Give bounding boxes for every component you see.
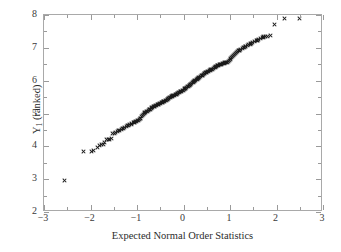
data-point-marker xyxy=(171,93,176,98)
data-point-marker xyxy=(159,100,164,105)
data-point-marker xyxy=(261,34,266,39)
x-axis-major-tick xyxy=(137,205,138,210)
data-point-marker xyxy=(147,107,152,112)
x-axis-major-tick xyxy=(323,205,324,210)
x-axis-tick-label: −2 xyxy=(84,213,95,223)
data-point-marker xyxy=(177,90,182,95)
y-axis-right-major-tick xyxy=(316,81,321,82)
y-axis-major-tick xyxy=(44,81,49,82)
data-point-marker xyxy=(231,53,236,58)
data-point-marker xyxy=(155,102,160,107)
data-point-marker xyxy=(256,37,261,42)
data-point-marker xyxy=(169,94,174,99)
scatter-data-layer xyxy=(44,15,321,210)
data-point-marker xyxy=(193,78,198,83)
x-axis-top-major-tick xyxy=(184,15,185,20)
data-point-marker xyxy=(131,120,136,125)
y-axis-label-subscript: 1 xyxy=(35,123,44,127)
data-point-marker xyxy=(267,33,272,38)
data-point-marker xyxy=(216,63,221,68)
x-axis-top-minor-tick xyxy=(207,15,208,18)
data-point-marker xyxy=(162,99,167,104)
data-point-marker xyxy=(200,73,205,78)
y-axis-major-tick xyxy=(44,15,49,16)
data-point-marker xyxy=(135,118,140,123)
data-point-marker xyxy=(138,116,143,121)
data-point-marker xyxy=(252,39,257,44)
data-point-marker xyxy=(133,119,138,124)
x-axis-top-major-tick xyxy=(277,15,278,20)
data-point-marker xyxy=(91,148,96,153)
data-point-marker xyxy=(254,38,259,43)
data-point-marker xyxy=(152,104,157,109)
x-axis-top-major-tick xyxy=(91,15,92,20)
data-point-marker xyxy=(233,51,238,56)
data-point-marker xyxy=(191,80,196,85)
data-point-marker xyxy=(189,81,194,86)
data-point-marker xyxy=(144,109,149,114)
data-point-marker xyxy=(184,85,189,90)
data-point-marker xyxy=(81,149,86,154)
data-point-marker xyxy=(206,69,211,74)
data-point-marker xyxy=(255,38,260,43)
data-point-marker xyxy=(201,72,206,77)
y-axis-right-major-tick xyxy=(316,146,321,147)
y-axis-right-minor-tick xyxy=(318,97,321,98)
x-axis-minor-tick xyxy=(300,207,301,210)
data-point-marker xyxy=(199,73,204,78)
data-point-marker xyxy=(121,126,126,131)
x-axis-major-tick xyxy=(184,205,185,210)
data-point-marker xyxy=(181,88,186,93)
data-point-marker xyxy=(127,122,132,127)
data-point-marker xyxy=(170,93,175,98)
data-point-marker xyxy=(204,70,209,75)
data-point-marker xyxy=(138,116,143,121)
y-axis-minor-tick xyxy=(44,163,47,164)
data-point-marker xyxy=(225,60,230,65)
data-point-marker xyxy=(197,75,202,80)
y-axis-minor-tick xyxy=(44,64,47,65)
data-point-marker xyxy=(134,119,139,124)
data-point-marker xyxy=(115,129,120,134)
data-point-marker xyxy=(95,145,100,150)
data-point-marker xyxy=(147,107,152,112)
data-point-marker xyxy=(228,56,233,61)
data-point-marker xyxy=(156,102,161,107)
data-point-marker xyxy=(222,61,227,66)
x-axis-top-minor-tick xyxy=(114,15,115,18)
data-point-marker xyxy=(132,120,137,125)
data-point-marker xyxy=(173,92,178,97)
data-point-marker xyxy=(176,90,181,95)
data-point-marker xyxy=(202,71,207,76)
data-point-marker xyxy=(132,120,137,125)
x-axis-minor-tick xyxy=(114,207,115,210)
data-point-marker xyxy=(185,84,190,89)
y-axis-tick-label: 8 xyxy=(32,9,37,19)
data-point-marker xyxy=(112,131,117,136)
y-axis-minor-tick xyxy=(44,31,47,32)
data-point-marker xyxy=(124,124,129,129)
data-point-marker xyxy=(166,96,171,101)
data-point-marker xyxy=(221,61,226,66)
data-point-marker xyxy=(219,62,224,67)
data-point-marker xyxy=(183,86,188,91)
data-point-marker xyxy=(178,89,183,94)
data-point-marker xyxy=(160,100,165,105)
data-point-marker xyxy=(272,22,277,27)
x-axis-minor-tick xyxy=(67,207,68,210)
data-point-marker xyxy=(220,61,225,66)
x-axis-minor-tick xyxy=(253,207,254,210)
data-point-marker xyxy=(61,178,66,183)
data-point-marker xyxy=(148,107,153,112)
y-axis-right-major-tick xyxy=(316,179,321,180)
y-axis-major-tick xyxy=(44,48,49,49)
y-axis-right-major-tick xyxy=(316,15,321,16)
data-point-marker xyxy=(182,86,187,91)
data-point-marker xyxy=(227,58,232,63)
data-point-marker xyxy=(153,103,158,108)
y-axis-major-tick xyxy=(44,114,49,115)
data-point-marker xyxy=(151,104,156,109)
data-point-marker xyxy=(165,97,170,102)
data-point-marker xyxy=(248,41,253,46)
data-point-marker xyxy=(195,77,200,82)
